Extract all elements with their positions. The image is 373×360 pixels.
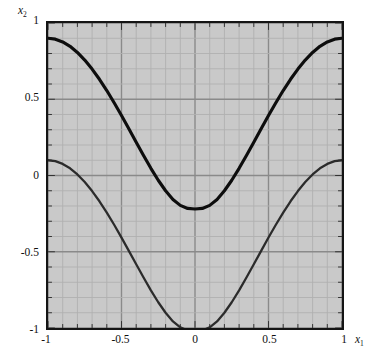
y-axis-label-subscript: 2 <box>23 10 27 19</box>
x-axis-label-subscript: 1 <box>360 339 364 348</box>
y-tick-label-zero: 0 <box>8 170 39 182</box>
x-axis-label: x1 <box>355 334 364 348</box>
y-tick-label-neg1: -1 <box>8 324 39 336</box>
y-tick-label-neg0point5: -0.5 <box>8 247 39 259</box>
y-tick-label-0point5: 0.5 <box>8 93 39 105</box>
x-tick-label-1: 1 <box>341 334 347 346</box>
figure-canvas: -1 -0.5 0 0.5 1 1 0.5 0 -0.5 -1 x1 x2 <box>0 0 373 360</box>
x-tick-label-neg0point5: -0.5 <box>111 334 129 346</box>
curve-layer <box>48 23 342 328</box>
x-tick-label-neg1: -1 <box>41 334 51 346</box>
plot-frame <box>46 21 344 330</box>
y-axis-label: x2 <box>18 5 27 19</box>
x-tick-label-0point5: 0.5 <box>262 334 276 346</box>
x-tick-label-zero: 0 <box>192 334 198 346</box>
